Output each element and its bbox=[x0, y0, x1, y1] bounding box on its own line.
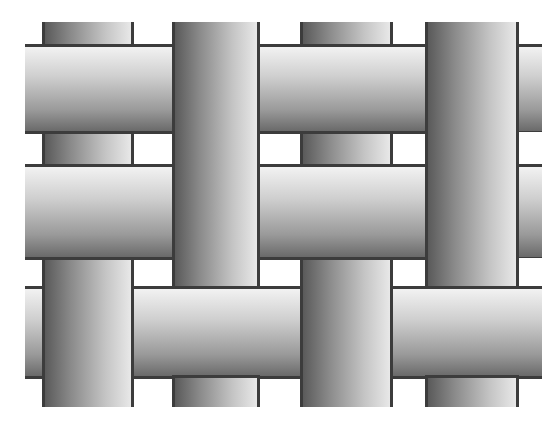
right-gap bbox=[519, 132, 542, 164]
strip-column-d-bottom bbox=[425, 375, 519, 407]
weave-pattern bbox=[0, 0, 559, 428]
right-gap bbox=[519, 258, 542, 286]
strip-column-b-top bbox=[172, 22, 260, 289]
strip-column-c-bottom bbox=[300, 256, 393, 407]
strip-column-b-bottom bbox=[172, 375, 260, 407]
strip-column-a-bottom bbox=[42, 256, 134, 407]
strip-column-d-top bbox=[425, 22, 519, 289]
strip-column-a-mid bbox=[42, 130, 134, 168]
strip-column-c-mid bbox=[300, 130, 393, 168]
